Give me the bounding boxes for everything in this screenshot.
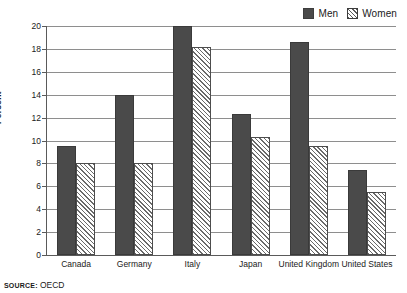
bar-men-united-states <box>348 170 367 255</box>
y-axis-tick-label: 0 <box>19 251 41 259</box>
y-axis-tick-label: 10 <box>19 137 41 145</box>
y-axis-tick <box>42 232 46 233</box>
y-axis-tick <box>42 26 46 27</box>
y-axis-tick-label: 12 <box>19 114 41 122</box>
y-axis-tick-label: 14 <box>19 91 41 99</box>
y-axis-tick <box>42 255 46 256</box>
y-axis-tick <box>42 72 46 73</box>
bar-group <box>232 26 270 255</box>
y-axis-tick <box>42 141 46 142</box>
y-axis-tick <box>42 49 46 50</box>
bar-group <box>290 26 328 255</box>
bar-men-canada <box>57 146 76 255</box>
y-axis-tick <box>42 95 46 96</box>
plot-area: Percent 20181614121086420 CanadaGermanyI… <box>0 0 407 293</box>
bar-group <box>173 26 211 255</box>
source-note: SOURCE: OECD <box>4 280 64 291</box>
y-axis-tick <box>42 209 46 210</box>
gridline <box>47 255 396 256</box>
y-axis-tick-label: 18 <box>19 45 41 53</box>
y-axis-tick <box>42 163 46 164</box>
bar-men-germany <box>115 95 134 255</box>
y-axis-tick-label: 16 <box>19 68 41 76</box>
y-axis-title: Percent <box>0 91 3 124</box>
bar-chart-figure: Men Women Percent 20181614121086420 Cana… <box>0 0 407 293</box>
bar-women-united-states <box>367 192 386 255</box>
bar-men-united-kingdom <box>290 42 309 255</box>
bar-series-container <box>47 26 396 255</box>
source-value: OECD <box>40 280 65 290</box>
bar-women-united-kingdom <box>309 146 328 255</box>
y-axis-tick-label: 6 <box>19 182 41 190</box>
y-axis-tick <box>42 118 46 119</box>
bar-women-germany <box>134 163 153 255</box>
source-keyword: SOURCE: <box>4 282 38 289</box>
bar-men-japan <box>232 114 251 255</box>
bar-group <box>348 26 386 255</box>
bar-women-italy <box>192 47 211 255</box>
y-axis-tick-label: 2 <box>19 228 41 236</box>
bar-men-italy <box>173 26 192 255</box>
y-axis-tick <box>42 186 46 187</box>
y-axis-tick-label: 8 <box>19 159 41 167</box>
x-axis-label-united-states: United States <box>317 259 407 269</box>
y-axis-tick-label: 4 <box>19 205 41 213</box>
y-axis-tick-label: 20 <box>19 22 41 30</box>
bar-women-japan <box>251 137 270 255</box>
bar-group <box>57 26 95 255</box>
bar-women-canada <box>76 163 95 255</box>
bar-group <box>115 26 153 255</box>
